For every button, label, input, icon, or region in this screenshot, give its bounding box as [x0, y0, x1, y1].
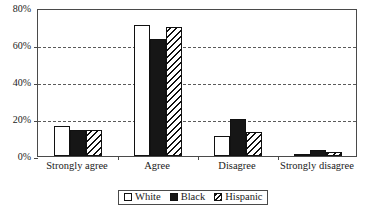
y-tick-label: 20% [0, 115, 31, 125]
bar-chart: 80%60%40%20%0% Strongly agreeAgreeDisagr… [0, 0, 375, 213]
filled-square-icon [170, 193, 178, 201]
legend-item-label: Black [181, 192, 206, 203]
hatched-square-icon [214, 193, 222, 201]
plot-area [37, 9, 357, 157]
open-square-icon [124, 193, 132, 201]
y-tick-mark [34, 158, 38, 159]
bar [246, 132, 262, 156]
x-tick-label: Disagree [197, 160, 277, 173]
y-tick-label: 0% [0, 152, 31, 162]
x-tick-label: Agree [117, 160, 197, 173]
bar [70, 130, 86, 156]
bar [214, 136, 230, 156]
bar [326, 152, 342, 156]
bar [150, 39, 166, 156]
bar [310, 150, 326, 156]
bar [134, 25, 150, 156]
x-tick-label: Strongly disagree [277, 160, 357, 173]
bars-layer [38, 10, 356, 156]
x-axis: Strongly agreeAgreeDisagreeStrongly disa… [37, 160, 357, 176]
y-tick-label: 80% [0, 4, 31, 14]
bar [86, 130, 102, 156]
legend-item-black: Black [170, 192, 206, 203]
bar [230, 119, 246, 156]
y-tick-label: 40% [0, 78, 31, 88]
legend-item-label: Hispanic [225, 192, 262, 203]
legend-item-hispanic: Hispanic [214, 192, 262, 203]
chart-legend: WhiteBlackHispanic [118, 190, 268, 205]
legend-item-white: White [124, 192, 161, 203]
legend-item-label: White [135, 192, 161, 203]
y-axis: 80%60%40%20%0% [0, 0, 31, 213]
bar [54, 126, 70, 156]
x-tick-label: Strongly agree [37, 160, 117, 173]
bar [294, 154, 310, 156]
bar [166, 27, 182, 157]
y-tick-label: 60% [0, 41, 31, 51]
